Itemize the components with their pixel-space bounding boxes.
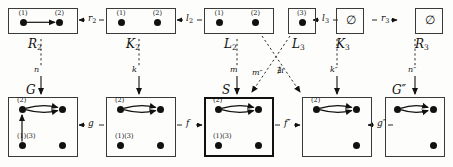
horizontal-morphism-label: f″ (284, 118, 291, 128)
object-box-D (106, 97, 176, 157)
graph-node (394, 106, 401, 113)
vertical-morphism-label: k″ (330, 65, 338, 74)
graph-node (299, 19, 306, 26)
graph-node (353, 142, 360, 149)
graph-node-label: (2) (55, 10, 64, 17)
graph-node (215, 142, 222, 149)
graph-node (20, 19, 27, 26)
object-box-G (8, 97, 78, 157)
graph-node-label: (2) (153, 10, 162, 17)
object-name-text: R (28, 37, 37, 51)
vertical-morphism-label: n″ (408, 65, 416, 74)
vertical-morphism-label: k (132, 65, 137, 74)
vertical-morphism-label: n (34, 65, 39, 74)
object-name-subscript: 3 (424, 43, 429, 52)
morphism-name: g″ (377, 118, 386, 128)
object-box-S (204, 97, 274, 157)
graph-node-label: (1) (18, 10, 27, 17)
object-name-subscript: 2 (135, 43, 140, 52)
object-box-Dpp (302, 97, 372, 157)
empty-set-symbol: ∅ (425, 14, 435, 26)
horizontal-morphism-label: l2 (186, 13, 193, 25)
graph-node-label: (1) (116, 10, 125, 17)
morphism-subscript: 3 (325, 17, 329, 25)
morphism-name: g (88, 118, 94, 128)
graph-node (157, 106, 164, 113)
object-name-label: G″ (392, 83, 406, 97)
vertical-morphism-label: m (230, 65, 238, 74)
graph-node (19, 106, 26, 113)
object-name-text: L (224, 37, 232, 51)
horizontal-morphism-label: l3 (322, 13, 329, 25)
diagonal-morphism-label: ∄i (277, 66, 284, 75)
morphism-subscript: 2 (189, 17, 193, 25)
object-name-label: R2 (28, 37, 42, 52)
graph-node-label: (1) (214, 10, 223, 17)
morphism-name: f″ (284, 118, 291, 128)
object-name-label: L3 (292, 37, 305, 52)
horizontal-morphism-label: f (186, 118, 189, 128)
graph-node-label: (2) (311, 97, 320, 104)
morphism-subscript: 2 (92, 17, 96, 25)
object-name-label: G (26, 83, 36, 97)
empty-set-symbol: ∅ (346, 14, 356, 26)
object-box-Gpp (385, 97, 445, 157)
object-name-text: R (415, 37, 424, 51)
object-name-text: K (336, 37, 345, 51)
graph-node (157, 142, 164, 149)
graph-node (118, 19, 125, 26)
horizontal-morphism-label: r3 (381, 13, 389, 25)
object-name-subscript: 3 (300, 43, 305, 52)
object-name-subscript: 2 (232, 43, 237, 52)
graph-node-label: (1)(3) (115, 133, 133, 140)
object-name-text: S (222, 83, 230, 97)
graph-node (216, 19, 223, 26)
horizontal-morphism-label: g″ (377, 118, 386, 128)
graph-node (313, 106, 320, 113)
object-name-text: G″ (392, 83, 406, 97)
object-name-subscript: 3 (345, 43, 350, 52)
graph-node (117, 106, 124, 113)
graph-node (215, 106, 222, 113)
graph-node-label: (2) (17, 97, 26, 104)
graph-node (117, 142, 124, 149)
graph-node-label: (2) (251, 10, 260, 17)
graph-node (19, 142, 26, 149)
object-name-label: K2 (126, 37, 140, 52)
graph-node (255, 142, 262, 149)
diagonal-morphism-label: m″ (252, 68, 263, 77)
object-name-label: R3 (415, 37, 429, 52)
object-name-text: K (126, 37, 135, 51)
object-name-label: S (222, 83, 230, 97)
object-name-subscript: 2 (37, 43, 42, 52)
graph-node-label: (1)(3) (213, 133, 231, 140)
graph-node (255, 106, 262, 113)
object-name-label: K3 (336, 37, 350, 52)
graph-node-label: (2) (213, 97, 222, 104)
horizontal-morphism-label: g (88, 118, 94, 128)
graph-node (430, 142, 437, 149)
morphism-name: f (186, 118, 189, 128)
graph-node (59, 106, 66, 113)
graph-node (430, 106, 437, 113)
horizontal-morphism-label: r2 (88, 13, 96, 25)
graph-node-label: (2) (115, 97, 124, 104)
graph-node (353, 106, 360, 113)
graph-node-label: (3) (297, 10, 306, 17)
diagram-canvas: (1)(2)(1)(2)(1)(2)(3)∅∅(2)(1)(3)(2)(1)(3… (0, 0, 453, 167)
object-name-text: L (292, 37, 300, 51)
graph-node-label: (1)(3) (17, 133, 35, 140)
graph-node (59, 142, 66, 149)
morphism-subscript: 3 (385, 17, 389, 25)
object-name-label: L2 (224, 37, 237, 52)
object-name-text: G (26, 83, 36, 97)
